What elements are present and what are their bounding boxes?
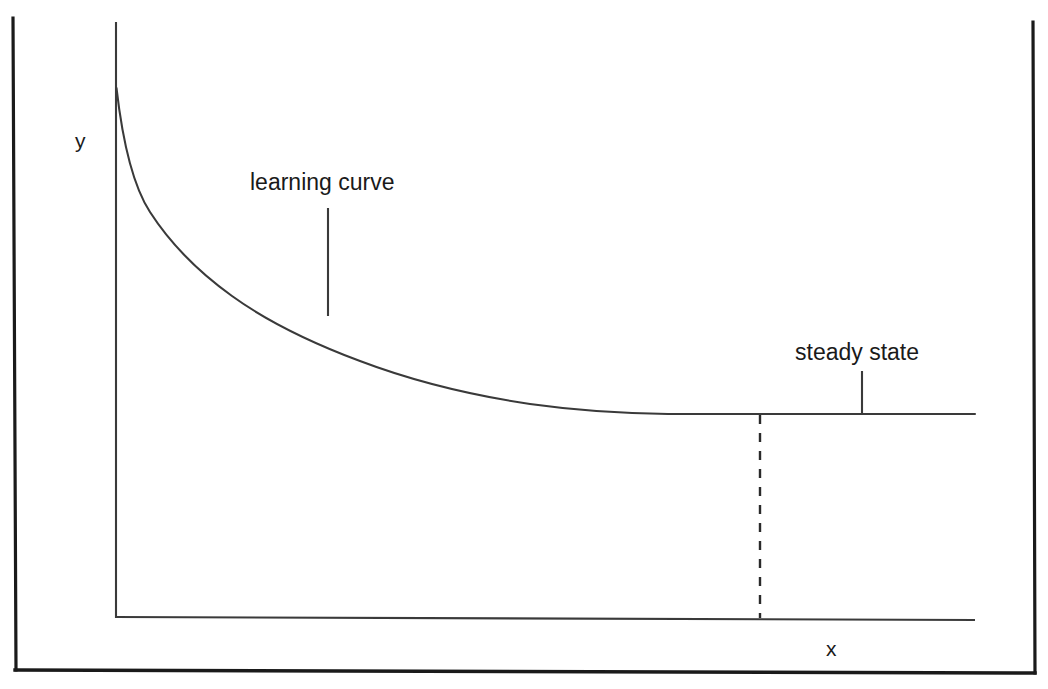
steady-state-label: steady state [795,339,919,365]
page-border-left [13,18,16,670]
learning-curve-line [117,88,976,414]
x-axis-label: x [826,637,837,660]
chart-axes [115,22,975,620]
y-axis-label: y [75,129,86,152]
learning-curve-figure: learning curve steady state y x [0,0,1048,689]
page-border-right [1033,22,1035,673]
horizontal-axis [115,617,975,620]
learning-curve-path [117,88,976,414]
page-border-bottom [15,670,1035,673]
learning-curve-label: learning curve [250,169,394,195]
annotation-learning-curve: learning curve [250,169,394,316]
figure-page: learning curve steady state y x [0,0,1048,689]
annotation-steady-state: steady state [795,339,919,414]
